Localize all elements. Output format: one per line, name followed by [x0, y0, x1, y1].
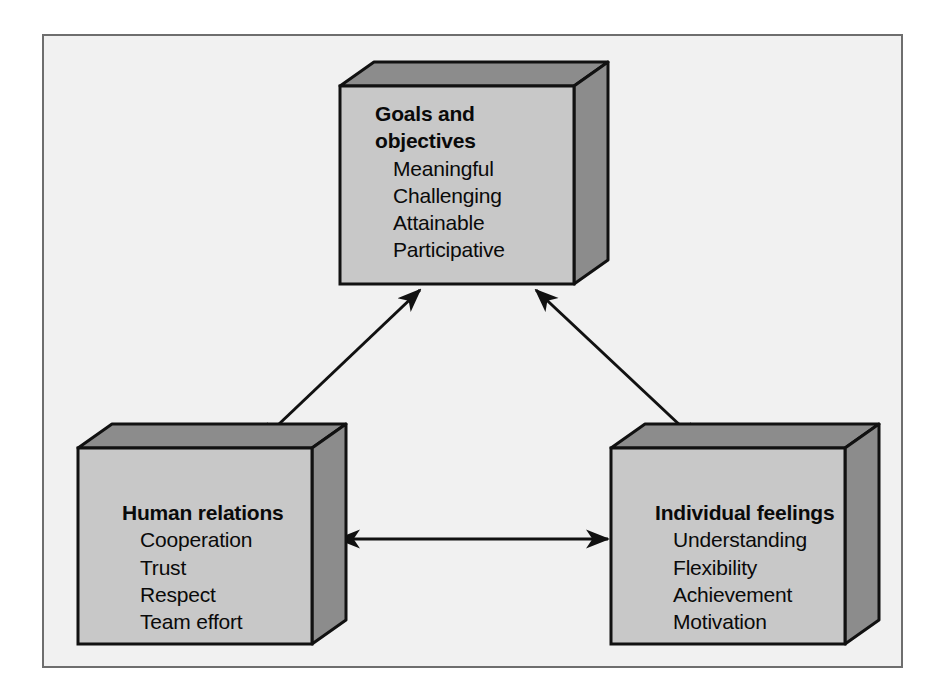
box-goals-title-line-1: Goals and — [375, 100, 505, 127]
box-goals-title-line-2: objectives — [375, 127, 505, 154]
box-individual-feelings-item-2: Flexibility — [655, 554, 834, 581]
box-goals-item-4: Participative — [375, 236, 505, 263]
figure-root: goals and objectives --> individual feel… — [0, 0, 943, 697]
box-human-relations-title: Human relations — [122, 499, 284, 526]
box-individual-feelings-side-face — [845, 424, 879, 644]
box-individual-feelings-title: Individual feelings — [655, 499, 834, 526]
box-human-relations-item-1: Cooperation — [122, 526, 284, 553]
box-human-relations-item-4: Team effort — [122, 608, 284, 635]
box-goals-side-face — [574, 62, 608, 284]
box-human-relations-top-face — [78, 424, 346, 448]
box-individual-feelings-item-3: Achievement — [655, 581, 834, 608]
box-individual-feelings-item-4: Motivation — [655, 608, 834, 635]
box-goals-top-face — [340, 62, 608, 86]
box-human-relations-item-2: Trust — [122, 554, 284, 581]
box-human-relations-side-face — [312, 424, 346, 644]
box-goals-item-3: Attainable — [375, 209, 505, 236]
box-human-relations-text: Human relations Cooperation Trust Respec… — [122, 499, 284, 635]
box-goals-and-objectives-text: Goals and objectives Meaningful Challeng… — [375, 100, 505, 264]
box-individual-feelings-top-face — [611, 424, 879, 448]
box-individual-feelings-text: Individual feelings Understanding Flexib… — [655, 499, 834, 635]
box-goals-item-2: Challenging — [375, 182, 505, 209]
box-individual-feelings-item-1: Understanding — [655, 526, 834, 553]
box-human-relations-item-3: Respect — [122, 581, 284, 608]
box-goals-item-1: Meaningful — [375, 155, 505, 182]
